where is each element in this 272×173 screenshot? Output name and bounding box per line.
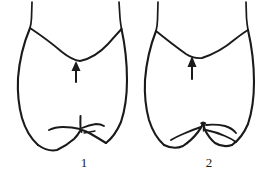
figure-1-left-stalk xyxy=(30,2,32,28)
figure-2-right-lobe-lower-stroke xyxy=(206,130,236,142)
figure-2-right-lateral-margin xyxy=(232,30,254,145)
figure-2-group: 2 xyxy=(145,2,254,170)
figure-2-anterior-margin xyxy=(156,30,248,58)
figure-1-right-lobe-edge xyxy=(82,124,104,128)
figure-1-posterior-left-margin xyxy=(38,131,80,150)
figure-1-group: 1 xyxy=(18,2,127,170)
figure-1-left-lateral-margin xyxy=(18,28,38,145)
figure-1-right-stalk xyxy=(119,2,122,29)
figure-2-left-lateral-margin xyxy=(145,31,164,145)
figure-1-left-lobe-edge xyxy=(49,127,80,130)
figure-2-caption: 2 xyxy=(206,155,213,170)
figure-1-anterior-margin xyxy=(30,28,122,61)
figure-1-right-lateral-margin xyxy=(106,29,127,143)
figure-1-caption: 1 xyxy=(81,155,88,170)
figure-2-left-stalk xyxy=(156,2,158,31)
figure-1-arrow-head xyxy=(72,61,81,71)
figure-2-right-stalk xyxy=(246,2,248,30)
figure-plate: 1 xyxy=(0,0,272,173)
line-drawing-canvas: 1 xyxy=(0,0,272,173)
figure-1-posterior-right-margin xyxy=(82,130,106,143)
